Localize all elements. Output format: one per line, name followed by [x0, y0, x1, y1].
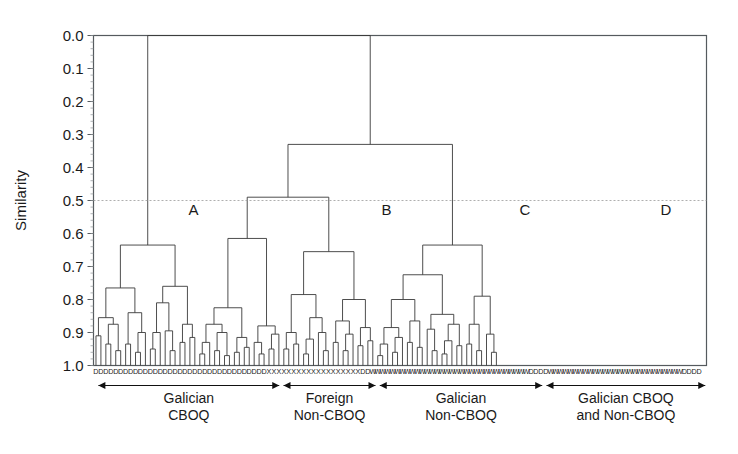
y-axis-tick-label: 0.6 [63, 225, 84, 242]
y-axis-tick-label: 1.0 [63, 357, 84, 374]
group-bracket-arrow-right [368, 382, 375, 389]
group-bracket-arrow-right [535, 382, 542, 389]
y-axis-title: Similarity [12, 170, 29, 231]
group-bracket-arrow-right [272, 382, 279, 389]
cluster-label-b: B [382, 201, 392, 218]
group-bracket-arrow-left [547, 382, 554, 389]
y-axis-tick-label: 0.4 [63, 159, 84, 176]
group-label-line1: Foreign [306, 390, 353, 406]
y-axis-tick-label: 0.3 [63, 126, 84, 143]
y-axis-tick-label: 0.9 [63, 324, 84, 341]
group-bracket-arrow-left [380, 382, 387, 389]
dendrogram-figure: 0.00.10.20.30.40.50.60.70.80.91.0 ABCD D… [0, 0, 738, 454]
group-label-line1: Galician CBOQ [578, 390, 674, 406]
y-axis-tick-label: 0.8 [63, 291, 84, 308]
group-label-line1: Galician [436, 390, 487, 406]
y-axis-tick-label: 0.7 [63, 258, 84, 275]
group-label-line1: Galician [164, 390, 215, 406]
y-axis-tick-label: 0.5 [63, 192, 84, 209]
y-axis-tick-label: 0.2 [63, 93, 84, 110]
group-bracket-arrow-left [284, 382, 291, 389]
axis-ticks-layer: 0.00.10.20.30.40.50.60.70.80.91.0 [63, 27, 94, 374]
leaf-labels-layer: DDDDDDDDDDDDDDDDDDDDDDDDDDDDDDDDDDDXXXXX… [93, 367, 701, 376]
cluster-labels-layer: ABCD [189, 201, 672, 218]
cluster-label-a: A [189, 201, 199, 218]
dendrogram-tree-layer [96, 36, 496, 366]
cluster-label-d: D [661, 201, 672, 218]
y-axis-tick-label: 0.0 [63, 27, 84, 44]
y-axis-tick-label: 0.1 [63, 60, 84, 77]
group-brackets-layer: GalicianCBOQForeignNon-CBOQGalicianNon-C… [98, 382, 705, 423]
group-label-line2: Non-CBOQ [294, 407, 366, 423]
axis-title-layer: Similarity [12, 170, 29, 231]
group-bracket-arrow-right [698, 382, 705, 389]
group-label-line2: CBOQ [168, 407, 209, 423]
group-label-line2: Non-CBOQ [425, 407, 497, 423]
group-label-line2: and Non-CBOQ [576, 407, 675, 423]
cluster-label-c: C [520, 201, 531, 218]
leaf-label: D [696, 367, 701, 376]
group-bracket-arrow-left [98, 382, 105, 389]
